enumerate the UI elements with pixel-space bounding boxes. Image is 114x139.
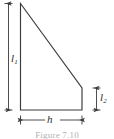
figure-container: l1 l2 h Figure 7.10: [0, 0, 114, 139]
trapezoid-outline: [21, 4, 83, 111]
dimension-label-l2: l2: [100, 92, 107, 105]
dimension-label-l1-subscript: 1: [14, 58, 18, 66]
trapezoid-shape: [21, 4, 83, 111]
dimension-label-l2-subscript: 2: [103, 97, 107, 105]
figure-drawing: [0, 0, 114, 139]
figure-caption: Figure 7.10: [0, 130, 114, 139]
dimension-label-l1: l1: [11, 53, 18, 66]
dimension-label-h-symbol: h: [47, 113, 53, 125]
dimension-label-h: h: [47, 114, 53, 125]
